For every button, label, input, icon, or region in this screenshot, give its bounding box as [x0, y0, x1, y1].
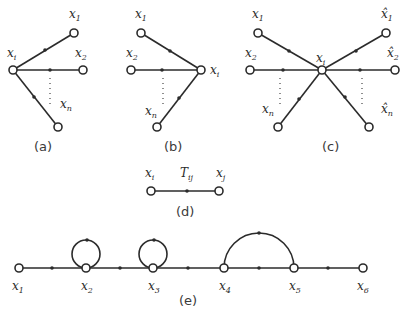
signal-flow-graph-figure: xi x1 x2 xn (a) x1 x2 xi xn (b): [0, 0, 410, 315]
label-x5: x5: [289, 279, 301, 295]
arrow-marker: [85, 238, 89, 242]
arrow-marker: [43, 48, 47, 52]
node-xn: [54, 123, 62, 131]
label-x2: x2: [245, 46, 257, 62]
node-xi: [147, 187, 155, 195]
label-x6: x6: [357, 279, 369, 295]
caption-c: (c): [322, 139, 339, 154]
node-xj: [215, 187, 223, 195]
arrow-marker: [257, 266, 261, 270]
node-xi: [197, 66, 205, 74]
label-x1: x1: [135, 7, 147, 23]
node-x1: [15, 264, 23, 272]
label-x1: x1: [252, 7, 264, 23]
node-x1: [137, 29, 145, 37]
node-xi: [318, 66, 326, 74]
label-xn: xn: [262, 102, 274, 118]
panel-c: xi x1 x2 xn x̂1 x̂2 x̂n (c): [245, 7, 399, 154]
arrow-marker: [326, 266, 330, 270]
label-x1: x1: [69, 7, 81, 23]
arrow-marker: [297, 97, 301, 101]
node-x3: [149, 264, 157, 272]
node-xhat2: [391, 66, 399, 74]
arrow-marker: [32, 95, 36, 99]
arrow-marker: [343, 95, 347, 99]
arrow-marker: [186, 266, 190, 270]
label-x2: x2: [81, 279, 93, 295]
label-xi: xi: [145, 166, 155, 182]
arrow-marker: [281, 68, 285, 72]
label-xn: xn: [145, 104, 157, 120]
node-xi: [9, 66, 17, 74]
arrow-marker: [177, 96, 181, 100]
node-xhatn: [365, 123, 373, 131]
label-gain-tij: Tij: [180, 166, 194, 182]
label-xi: xi: [7, 46, 17, 62]
edge-xi-xhat1: [322, 33, 386, 70]
arrow-marker: [287, 49, 291, 53]
node-xn: [274, 123, 282, 131]
node-x2: [127, 66, 135, 74]
label-xhat2: x̂2: [387, 46, 399, 62]
node-xn: [153, 123, 161, 131]
panel-e: x1 x2 x3 x4 x5 x6 (e): [12, 231, 369, 308]
arrow-marker: [185, 189, 189, 193]
arrow-marker: [50, 266, 54, 270]
label-x2: x2: [126, 46, 138, 62]
node-xhat1: [382, 29, 390, 37]
node-x2: [82, 264, 90, 272]
edge-xi-xn: [13, 70, 58, 127]
label-xhat1: x̂1: [381, 7, 393, 23]
label-xn: xn: [60, 97, 72, 113]
arrow-marker: [257, 231, 261, 235]
label-xi: xi: [210, 63, 220, 79]
edge-xi-x1: [13, 33, 74, 70]
label-x3: x3: [148, 279, 160, 295]
label-xj: xj: [216, 166, 226, 182]
label-x1: x1: [12, 279, 24, 295]
caption-e: (e): [179, 293, 197, 308]
node-x2: [79, 66, 87, 74]
caption-d: (d): [176, 204, 194, 219]
node-x1: [254, 29, 262, 37]
node-x4: [220, 264, 228, 272]
arrow-marker: [354, 49, 358, 53]
node-x6: [359, 264, 367, 272]
arrow-marker: [160, 68, 164, 72]
arrow-marker: [168, 49, 172, 53]
panel-d: xi Tij xj (d): [145, 166, 226, 219]
arrow-marker: [118, 266, 122, 270]
label-x2: x2: [75, 46, 87, 62]
caption-a: (a): [34, 139, 52, 154]
label-x4: x4: [219, 279, 231, 295]
label-xi: xi: [316, 51, 326, 67]
panel-b: x1 x2 xi xn (b): [126, 7, 220, 154]
arrow-marker: [152, 238, 156, 242]
arrow-marker: [48, 68, 52, 72]
node-x2: [246, 66, 254, 74]
label-xhatn: x̂n: [381, 102, 393, 118]
arrow-marker: [358, 68, 362, 72]
panel-a: xi x1 x2 xn (a): [7, 7, 87, 154]
arc-x4-x5: [224, 233, 294, 268]
node-x5: [290, 264, 298, 272]
caption-b: (b): [164, 139, 182, 154]
node-x1: [70, 29, 78, 37]
